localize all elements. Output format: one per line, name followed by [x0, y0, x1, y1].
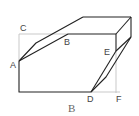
- fold-d-e: [91, 51, 116, 92]
- label-f: F: [116, 94, 122, 104]
- top-right-diagonal: [116, 17, 131, 34]
- front-face-left-bottom: [19, 61, 91, 92]
- figure-lines: [19, 17, 131, 92]
- fold-a-back: [19, 17, 83, 61]
- label-e: E: [104, 47, 110, 57]
- fold-d-back: [91, 37, 131, 92]
- label-d: D: [87, 94, 94, 104]
- figure-caption: B: [68, 102, 75, 114]
- label-c: C: [20, 23, 27, 33]
- geometry-diagram: C B E A D F B: [0, 0, 139, 116]
- label-a: A: [10, 60, 16, 70]
- label-b: B: [64, 37, 70, 47]
- fold-a-b: [19, 34, 68, 61]
